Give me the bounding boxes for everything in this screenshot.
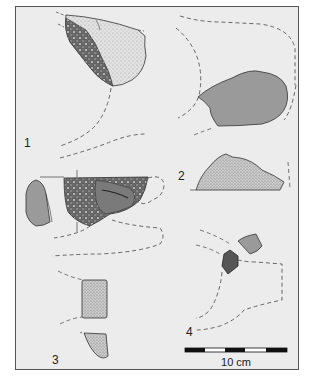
fragment-3: 3 <box>52 271 108 367</box>
fragment-4-label: 4 <box>186 325 193 339</box>
fragment-3-label: 3 <box>52 353 59 367</box>
fragment-2: 2 <box>176 16 296 190</box>
scale-bar-label: 10 cm <box>221 356 251 368</box>
fragment-rim-sherd <box>26 170 164 256</box>
fragment-2-label: 2 <box>178 169 185 183</box>
fragment-drawing: 1 2 3 <box>0 0 314 384</box>
fragment-4: 4 <box>186 230 282 339</box>
scale-bar: 10 cm <box>185 348 287 368</box>
fragment-1: 1 <box>24 12 146 158</box>
fragment-1-label: 1 <box>24 136 31 150</box>
